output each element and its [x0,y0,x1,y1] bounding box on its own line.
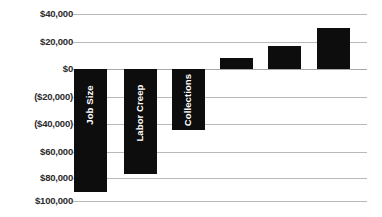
bar-6[interactable] [317,28,350,69]
bar-labor-creep[interactable] [124,69,157,174]
bar-4[interactable] [220,58,253,69]
plot-area: Job Size Labor Creep Collections [0,0,382,217]
bar-job-size[interactable] [74,69,107,192]
waterfall-bar-chart: $40,000 $20,000 $0 ($20,000) ($40,000) $… [0,0,382,217]
bar-5[interactable] [268,46,301,69]
bar-collections[interactable] [172,69,205,130]
